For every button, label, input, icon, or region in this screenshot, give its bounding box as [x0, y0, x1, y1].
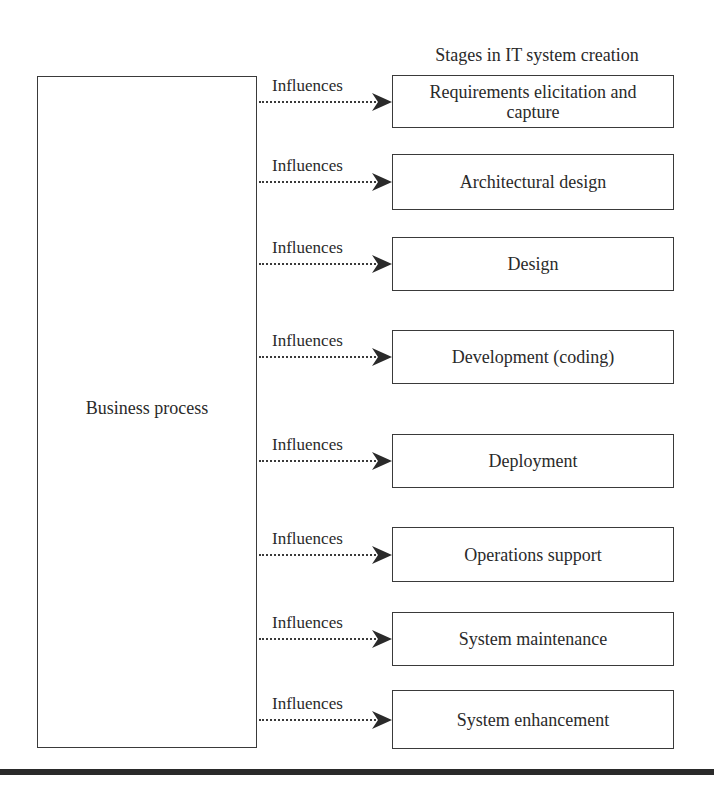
stage-box: Requirements elicitation and capture: [392, 75, 674, 128]
stage-label: System enhancement: [457, 710, 609, 730]
stage-box: Deployment: [392, 434, 674, 488]
influences-label: Influences: [272, 331, 343, 351]
arrowhead-icon: [372, 630, 392, 648]
arrowhead-icon: [372, 93, 392, 111]
dotted-arrow-line: [259, 638, 376, 640]
arrowhead-icon: [372, 255, 392, 273]
stage-label: System maintenance: [459, 629, 607, 649]
stage-box: Development (coding): [392, 330, 674, 384]
stage-label: Operations support: [464, 545, 601, 565]
influences-label: Influences: [272, 238, 343, 258]
stage-box: System enhancement: [392, 690, 674, 749]
dotted-arrow-line: [259, 719, 376, 721]
dotted-arrow-line: [259, 181, 376, 183]
dotted-arrow-line: [259, 460, 376, 462]
arrowhead-icon: [372, 711, 392, 729]
influences-label: Influences: [272, 156, 343, 176]
dotted-arrow-line: [259, 554, 376, 556]
business-process-box: Business process: [37, 76, 257, 748]
stages-title: Stages in IT system creation: [392, 44, 682, 66]
dotted-arrow-line: [259, 356, 376, 358]
bottom-rule: [0, 769, 714, 775]
business-process-label: Business process: [38, 397, 256, 419]
stage-box: Design: [392, 237, 674, 291]
influences-label: Influences: [272, 613, 343, 633]
influences-label: Influences: [272, 694, 343, 714]
stage-box: Architectural design: [392, 154, 674, 210]
stage-box: Operations support: [392, 527, 674, 582]
dotted-arrow-line: [259, 101, 376, 103]
dotted-arrow-line: [259, 263, 376, 265]
influences-label: Influences: [272, 76, 343, 96]
arrowhead-icon: [372, 452, 392, 470]
stage-box: System maintenance: [392, 612, 674, 666]
influences-label: Influences: [272, 529, 343, 549]
stage-label: Architectural design: [460, 172, 606, 192]
stage-label: Design: [508, 254, 559, 274]
stage-label: Development (coding): [452, 347, 614, 367]
influences-label: Influences: [272, 435, 343, 455]
stage-label: Requirements elicitation and capture: [428, 82, 638, 122]
stage-label: Deployment: [489, 451, 578, 471]
arrowhead-icon: [372, 348, 392, 366]
arrowhead-icon: [372, 546, 392, 564]
arrowhead-icon: [372, 173, 392, 191]
